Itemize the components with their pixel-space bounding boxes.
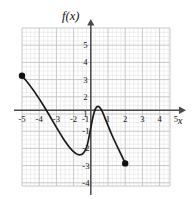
y-tick-label: -3 (82, 161, 89, 171)
right-endpoint-dot (122, 160, 128, 166)
y-tick-label: -1 (82, 126, 89, 136)
y-axis-arrowhead (87, 19, 94, 26)
x-tick-label: 4 (157, 114, 162, 124)
x-tick-label: -5 (18, 114, 25, 124)
function-label: f(x) (62, 9, 79, 23)
y-tick-label: 4 (83, 57, 88, 67)
graph-canvas: -5 -4 -3 -2 -1 1 2 3 4 5 5 4 3 2 1 -1 -2… (0, 0, 192, 199)
x-tick-label: 3 (140, 114, 144, 124)
y-tick-label: -4 (82, 178, 90, 188)
function-graph-figure: -5 -4 -3 -2 -1 1 2 3 4 5 5 4 3 2 1 -1 -2… (0, 0, 192, 199)
x-tick-label: -4 (36, 114, 44, 124)
x-axis-arrowhead (179, 106, 186, 114)
x-tick-label: 2 (123, 114, 127, 124)
y-tick-label: 1 (83, 109, 87, 119)
y-tick-label: 2 (83, 92, 87, 102)
x-tick-label: -2 (70, 114, 77, 124)
y-tick-label: 3 (83, 75, 87, 85)
left-endpoint-dot (19, 73, 25, 79)
axis-names: f(x) x (62, 9, 183, 126)
x-axis-label: x (177, 115, 183, 126)
y-tick-label: 5 (83, 40, 87, 50)
